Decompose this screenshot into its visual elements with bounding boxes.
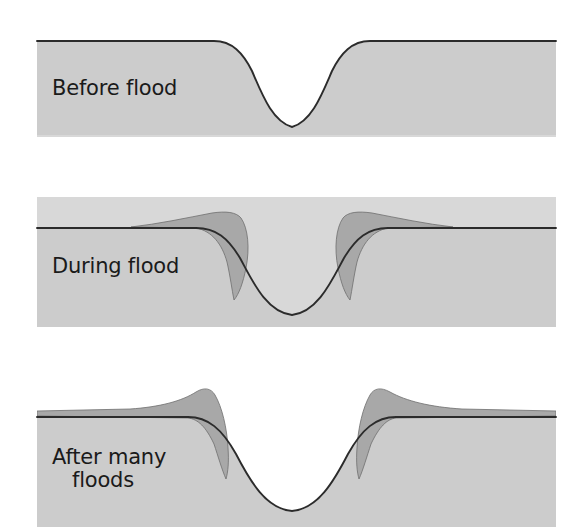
panel-label-during-flood: During flood [52,254,179,278]
panel-label-after-many-floods-line1: After many [52,445,166,469]
panel-label-before-flood: Before flood [52,76,177,100]
panel-label-after-many-floods-line2: floods [72,468,134,492]
floodplain-levee-diagram: Before flood During flood After many flo… [0,0,579,532]
panel-during-flood: During flood [37,197,556,327]
